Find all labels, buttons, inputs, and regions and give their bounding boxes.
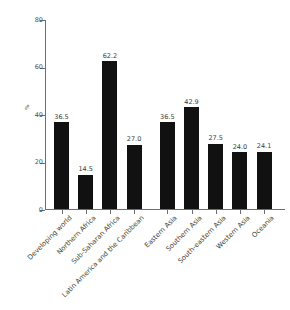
bar: 24.1 bbox=[257, 152, 272, 209]
bar: 24.0 bbox=[232, 152, 247, 209]
bar: 36.5 bbox=[160, 122, 175, 209]
bar-value-label: 42.9 bbox=[184, 98, 198, 106]
bar-value-label: 14.5 bbox=[78, 165, 92, 173]
bar: 14.5 bbox=[78, 175, 93, 209]
bar-value-label: 36.5 bbox=[160, 113, 174, 121]
bar-value-label: 36.5 bbox=[54, 113, 68, 121]
y-tick-label: 80 bbox=[35, 16, 43, 24]
bar-chart-figure: % 020406080 36.514.562.227.036.542.927.5… bbox=[0, 0, 290, 310]
bar: 27.5 bbox=[208, 144, 223, 209]
y-tick-label: 20 bbox=[35, 158, 43, 166]
y-axis-label: % bbox=[24, 100, 30, 114]
x-category-label: Developing world bbox=[26, 214, 74, 262]
y-axis-spine bbox=[45, 20, 46, 210]
x-axis-spine bbox=[45, 209, 285, 210]
bar-value-label: 62.2 bbox=[103, 52, 117, 60]
y-tick-label: 40 bbox=[35, 111, 43, 119]
bar-value-label: 24.0 bbox=[233, 143, 247, 151]
bar-value-label: 27.0 bbox=[127, 135, 141, 143]
y-tick-label: 60 bbox=[35, 63, 43, 71]
bar: 62.2 bbox=[102, 61, 117, 209]
bar: 27.0 bbox=[127, 145, 142, 209]
bar-value-label: 27.5 bbox=[208, 134, 222, 142]
bar: 36.5 bbox=[54, 122, 69, 209]
plot-area: 020406080 36.514.562.227.036.542.927.524… bbox=[45, 20, 285, 210]
bar: 42.9 bbox=[184, 107, 199, 209]
bar-value-label: 24.1 bbox=[257, 142, 271, 150]
y-tick-label: 0 bbox=[39, 206, 43, 214]
x-category-label: Oceania bbox=[250, 214, 275, 239]
x-axis-category-labels: Developing worldNorthern AfricaSub-Sahar… bbox=[45, 214, 285, 304]
